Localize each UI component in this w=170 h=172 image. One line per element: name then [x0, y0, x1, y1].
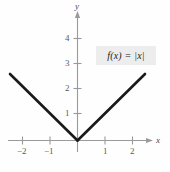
y-tick-label-4: 4 [65, 34, 70, 43]
absolute-value-function-figure: y x −2 −1 1 2 1 2 3 4 f(x) = |x| [0, 0, 170, 172]
y-tick-label-1: 1 [65, 109, 70, 118]
function-label-box: f(x) = |x| [96, 46, 156, 65]
x-tick-label-minus1: −1 [44, 147, 54, 156]
y-tick-label-3: 3 [65, 59, 70, 68]
curve-right-branch [78, 74, 146, 141]
y-axis-label: y [75, 2, 79, 11]
x-tick-label-2: 2 [130, 147, 135, 156]
x-tick-label-1: 1 [103, 147, 108, 156]
y-tick-label-2: 2 [65, 84, 70, 93]
x-axis-arrowhead [146, 138, 153, 143]
x-axis-label: x [156, 136, 160, 145]
x-tick-label-minus2: −2 [17, 147, 27, 156]
function-label-text: f(x) = |x| [107, 50, 145, 61]
y-axis-arrowhead [75, 11, 80, 18]
